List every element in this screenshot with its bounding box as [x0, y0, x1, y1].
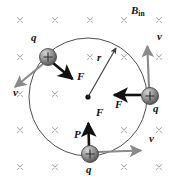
charge-label-top-left: q — [31, 32, 37, 43]
field-cross-icon — [122, 55, 127, 60]
velocity-label-right: v — [157, 31, 162, 42]
field-cross-icon — [53, 18, 58, 23]
field-cross-icon — [122, 128, 127, 133]
field-cross-icon — [53, 128, 58, 133]
force-label-right: F — [115, 99, 122, 110]
force-arrow-bottom — [88, 123, 89, 146]
field-cross-icon — [18, 92, 23, 97]
charge-label-right: q — [153, 103, 159, 114]
field-cross-icon — [157, 128, 162, 133]
force-arrow-top-left — [53, 63, 73, 79]
force-label-bottom: F — [96, 107, 103, 118]
point-label-p: P — [74, 129, 81, 140]
field-cross-icon — [18, 18, 23, 23]
force-label-top-left: F — [77, 71, 84, 82]
field-cross-icon — [18, 165, 23, 170]
magnetic-field-subscript: in — [138, 9, 144, 18]
field-cross-icon — [18, 55, 23, 60]
velocity-arrow-right — [147, 46, 149, 88]
field-cross-icon — [53, 92, 58, 97]
velocity-arrow-top-left — [15, 64, 43, 87]
charge-label-bottom: q — [86, 164, 92, 175]
field-cross-icon — [88, 55, 93, 60]
field-cross-icon — [122, 18, 127, 23]
field-cross-icon — [53, 165, 58, 170]
magnetic-field-label: Bin — [131, 5, 145, 16]
field-cross-icon — [18, 128, 23, 133]
field-cross-icon — [157, 165, 162, 170]
radius-label: r — [97, 52, 101, 63]
field-cross-icon — [122, 165, 127, 170]
field-cross-icon — [157, 55, 162, 60]
field-cross-icon — [88, 18, 93, 23]
velocity-label-bottom: v — [149, 133, 154, 144]
magnetic-field-circular-motion-diagram: Bin q v F r q v F P q v F — [0, 0, 173, 186]
diagram-canvas — [0, 0, 173, 186]
velocity-label-top-left: v — [13, 87, 18, 98]
field-cross-icon — [157, 18, 162, 23]
velocity-arrow-bottom — [98, 151, 141, 153]
